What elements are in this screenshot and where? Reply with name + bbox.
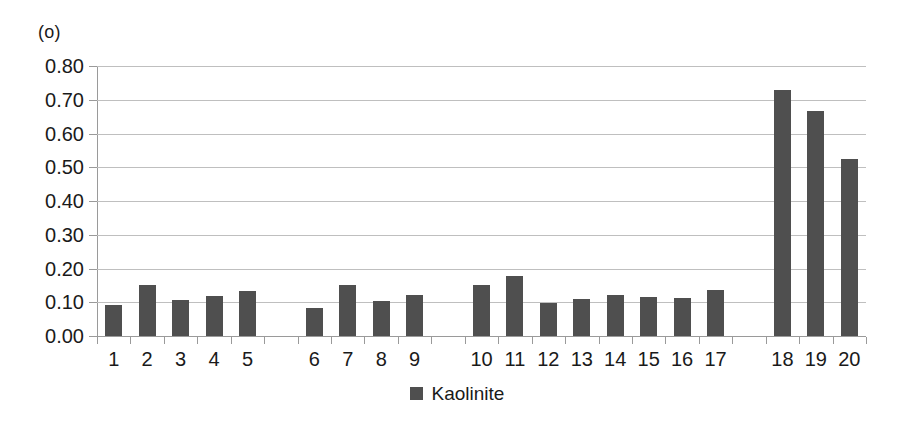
plot-area bbox=[97, 66, 866, 336]
x-tick-mark bbox=[833, 337, 834, 344]
x-tick-mark bbox=[431, 337, 432, 344]
legend-swatch-kaolinite bbox=[410, 387, 423, 400]
x-tick-label: 5 bbox=[222, 348, 272, 370]
y-tick-label: 0.30 bbox=[2, 225, 84, 245]
y-axis-tick-labels: 0.800.700.600.500.400.300.200.100.00 bbox=[0, 0, 84, 428]
bar bbox=[306, 308, 323, 336]
chart-figure: (o) 0.800.700.600.500.400.300.200.100.00… bbox=[0, 0, 914, 428]
y-tick-mark bbox=[89, 66, 97, 67]
bar bbox=[473, 285, 490, 336]
y-tick-label: 0.00 bbox=[2, 326, 84, 346]
x-tick-mark bbox=[565, 337, 566, 344]
x-tick-mark bbox=[866, 337, 867, 344]
bar bbox=[674, 298, 691, 336]
y-tick-label: 0.60 bbox=[2, 124, 84, 144]
bar bbox=[373, 301, 390, 336]
y-tick-label: 0.10 bbox=[2, 292, 84, 312]
x-tick-mark bbox=[632, 337, 633, 344]
y-tick-mark bbox=[89, 167, 97, 168]
y-tick-label: 0.80 bbox=[2, 56, 84, 76]
y-tick-mark bbox=[89, 235, 97, 236]
y-tick-label: 0.70 bbox=[2, 90, 84, 110]
y-tick-mark bbox=[89, 201, 97, 202]
x-tick-mark bbox=[732, 337, 733, 344]
x-tick-mark bbox=[97, 337, 98, 344]
y-tick-label: 0.20 bbox=[2, 259, 84, 279]
x-tick-mark bbox=[799, 337, 800, 344]
x-tick-mark bbox=[231, 337, 232, 344]
x-tick-mark bbox=[398, 337, 399, 344]
bars-layer bbox=[97, 66, 866, 336]
x-tick-mark bbox=[164, 337, 165, 344]
bar bbox=[206, 296, 223, 336]
y-tick-label: 0.50 bbox=[2, 157, 84, 177]
bar bbox=[774, 90, 791, 336]
bar bbox=[339, 285, 356, 336]
bar bbox=[841, 159, 858, 336]
bar bbox=[807, 111, 824, 336]
x-tick-label: 17 bbox=[691, 348, 741, 370]
bar bbox=[139, 285, 156, 336]
legend-label-kaolinite: Kaolinite bbox=[432, 383, 505, 404]
bar bbox=[640, 297, 657, 336]
x-tick-label: 20 bbox=[824, 348, 874, 370]
y-tick-mark bbox=[89, 134, 97, 135]
x-tick-mark bbox=[665, 337, 666, 344]
x-tick-mark bbox=[197, 337, 198, 344]
x-tick-mark bbox=[532, 337, 533, 344]
x-tick-mark bbox=[699, 337, 700, 344]
x-tick-mark bbox=[298, 337, 299, 344]
gridline bbox=[97, 336, 866, 337]
bar bbox=[607, 295, 624, 336]
x-tick-mark bbox=[264, 337, 265, 344]
x-tick-label: 9 bbox=[390, 348, 440, 370]
x-tick-mark bbox=[766, 337, 767, 344]
x-tick-mark bbox=[498, 337, 499, 344]
chart-legend: Kaolinite bbox=[0, 383, 914, 404]
y-tick-mark bbox=[89, 336, 97, 337]
y-tick-mark bbox=[89, 302, 97, 303]
bar bbox=[406, 295, 423, 337]
y-tick-label: 0.40 bbox=[2, 191, 84, 211]
y-tick-mark bbox=[89, 269, 97, 270]
bar bbox=[239, 291, 256, 336]
x-tick-mark bbox=[331, 337, 332, 344]
bar bbox=[105, 305, 122, 336]
bar bbox=[707, 290, 724, 336]
x-tick-mark bbox=[465, 337, 466, 344]
bar bbox=[172, 300, 189, 336]
x-tick-mark bbox=[599, 337, 600, 344]
bar bbox=[540, 303, 557, 336]
x-tick-mark bbox=[130, 337, 131, 344]
y-tick-mark bbox=[89, 100, 97, 101]
bar bbox=[573, 299, 590, 336]
x-tick-mark bbox=[364, 337, 365, 344]
bar bbox=[506, 276, 523, 336]
